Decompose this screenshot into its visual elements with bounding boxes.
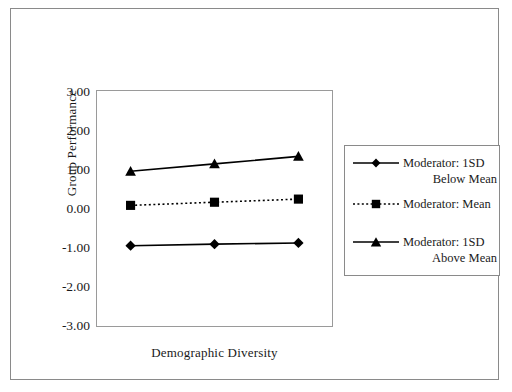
series-2 (125, 151, 304, 176)
data-point-1-0 (126, 201, 135, 210)
legend-label-above-mean-line2: Above Mean (403, 250, 497, 266)
data-point-1-2 (294, 195, 303, 204)
legend-label-below-mean-line2: Below Mean (403, 171, 497, 187)
data-point-0-1 (209, 239, 219, 249)
data-point-0-2 (293, 238, 303, 248)
legend-sample-square-icon (351, 196, 401, 212)
figure-root: 3.00 2.00 1.00 0.00 -1.00 -2.00 -3.00 Gr… (0, 0, 512, 392)
chart-legend: Moderator: 1SD Below Mean Moderator: Mea… (344, 145, 500, 276)
series-0 (125, 238, 303, 251)
data-point-1-1 (210, 198, 219, 207)
legend-label-above-mean-line1: Moderator: 1SD (403, 234, 497, 250)
legend-sample-triangle-icon (351, 234, 401, 250)
y-tick-label-neg-1: -1.00 (46, 241, 90, 255)
series-1 (126, 195, 303, 210)
y-tick-label-neg-3: -3.00 (46, 319, 90, 333)
data-point-0-0 (125, 241, 135, 251)
y-axis-title: Group Performance (64, 53, 80, 233)
plot-series-canvas (97, 91, 332, 326)
plot-area (96, 90, 333, 327)
data-point-2-2 (293, 151, 304, 161)
legend-label-mean-line1: Moderator: Mean (403, 196, 497, 212)
y-tick-label-neg-2: -2.00 (46, 280, 90, 294)
legend-sample-diamond-icon (351, 155, 401, 171)
x-axis-title: Demographic Diversity (96, 345, 333, 361)
legend-label-below-mean-line1: Moderator: 1SD (403, 155, 497, 171)
